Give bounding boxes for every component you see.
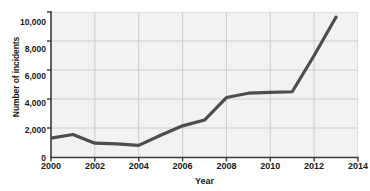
y-tick-label-4000: 4,000 — [2, 98, 46, 108]
y-tick-label-6000: 6,000 — [2, 71, 46, 81]
x-tick-label-2008: 2008 — [206, 161, 246, 171]
x-tick-label-2000: 2000 — [31, 161, 71, 171]
chart-figure: Number of incidents 10,000 8,000 6,000 4… — [0, 0, 370, 191]
x-tick-label-2002: 2002 — [75, 161, 115, 171]
data-line-number-of-incidents — [51, 17, 336, 145]
gridlines — [51, 12, 358, 157]
x-tick-label-2006: 2006 — [163, 161, 203, 171]
x-tick-label-2012: 2012 — [294, 161, 334, 171]
plot-svg — [51, 12, 358, 157]
x-tick-label-2004: 2004 — [119, 161, 159, 171]
x-tick-label-2014: 2014 — [338, 161, 370, 171]
y-tick-label-8000: 8,000 — [2, 44, 46, 54]
x-tick-label-2010: 2010 — [250, 161, 290, 171]
plot-area — [51, 12, 358, 157]
y-tick-label-10000: 10,000 — [2, 17, 46, 27]
x-axis-label: Year — [51, 176, 358, 186]
y-tick-label-2000: 2,000 — [2, 125, 46, 135]
